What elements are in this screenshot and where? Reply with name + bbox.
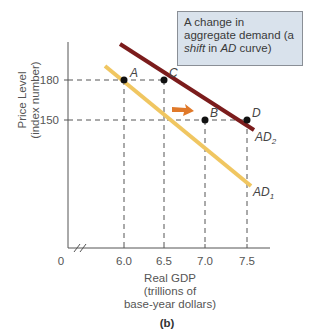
note-text-shift: shift <box>184 42 205 54</box>
y-tick-label-180: 180 <box>40 74 59 86</box>
note-text-3: in <box>205 42 220 54</box>
label-b: B <box>210 106 218 120</box>
y-axis-title: Price Level (index number) <box>16 61 41 139</box>
label-d: D <box>252 106 261 120</box>
note-text-5: curve) <box>236 42 271 54</box>
label-c: C <box>169 66 178 80</box>
svg-text:(index number): (index number) <box>29 61 41 139</box>
x-tick-label-0: 0 <box>58 255 64 267</box>
x-tick-label-7.5: 7.5 <box>239 255 255 267</box>
point-b <box>202 117 209 124</box>
svg-text:(trillions of: (trillions of <box>144 285 197 297</box>
shift-arrow-icon <box>172 104 194 116</box>
annotation-box: A change in aggregate demand (a shift in… <box>177 11 303 66</box>
label-a: A <box>129 66 138 80</box>
point-a <box>121 77 128 84</box>
x-tick-label-6.0: 6.0 <box>116 255 132 267</box>
note-text-1: A change in aggregate demand (a <box>184 16 294 41</box>
point-d <box>244 117 251 124</box>
y-tick-label-150: 150 <box>40 114 59 126</box>
note-text-ad: AD <box>220 42 236 54</box>
label-ad2: AD2 <box>254 130 277 146</box>
x-axis-title: Real GDP (trillions of base-year dollars… <box>124 272 216 310</box>
svg-text:base-year dollars): base-year dollars) <box>124 298 216 310</box>
label-ad1: AD1 <box>252 185 274 201</box>
panel-label: (b) <box>160 317 175 329</box>
x-tick-label-7.0: 7.0 <box>197 255 213 267</box>
ad1-curve <box>105 66 251 186</box>
svg-text:Price Level: Price Level <box>16 72 28 129</box>
svg-text:Real GDP: Real GDP <box>144 272 196 284</box>
x-tick-label-6.5: 6.5 <box>156 255 172 267</box>
point-c <box>161 77 168 84</box>
